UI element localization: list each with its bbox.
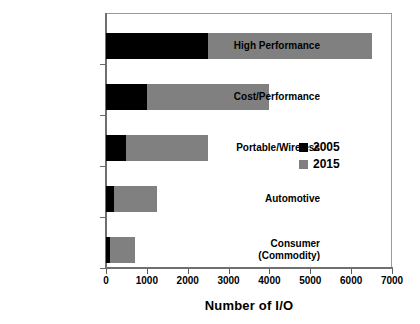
- x-tick-4000: [269, 269, 270, 274]
- x-tick-7000: [392, 269, 393, 274]
- category-label-line: Consumer: [220, 238, 320, 250]
- bar-segment: [110, 237, 135, 263]
- x-tick-5000: [310, 269, 311, 274]
- y-tick-2: [100, 115, 106, 116]
- legend: 2005 2015: [299, 139, 340, 173]
- category-label: Automotive: [220, 193, 320, 205]
- category-label: Consumer(Commodity): [220, 238, 320, 262]
- bar-segment: [114, 186, 157, 212]
- bar-chart: 01000200030004000500060007000 High Perfo…: [0, 0, 420, 324]
- x-axis-line: [106, 267, 393, 269]
- legend-swatch-icon-2005: [299, 143, 308, 152]
- x-tick-3000: [229, 269, 230, 274]
- bar-segment: [126, 135, 208, 161]
- x-axis-title: Number of I/O: [106, 298, 392, 313]
- category-label-line: Automotive: [220, 193, 320, 205]
- legend-label-2015: 2015: [313, 158, 340, 171]
- x-tick-2000: [188, 269, 189, 274]
- y-tick-3: [100, 166, 106, 167]
- category-label-line: (Commodity): [220, 250, 320, 262]
- x-tick-6000: [351, 269, 352, 274]
- category-label-line: Cost/Performance: [220, 91, 320, 103]
- y-tick-1: [100, 64, 106, 65]
- y-tick-5: [100, 268, 106, 269]
- bar-segment: [106, 186, 114, 212]
- y-tick-4: [100, 217, 106, 218]
- bar-segment: [106, 33, 208, 59]
- legend-swatch-icon-2015: [299, 160, 308, 169]
- category-label-line: High Performance: [220, 40, 320, 52]
- category-label: High Performance: [220, 40, 320, 52]
- x-tick-1000: [147, 269, 148, 274]
- legend-item-2015: 2015: [299, 156, 340, 173]
- x-tick-0: [106, 269, 107, 274]
- legend-item-2005: 2005: [299, 139, 340, 156]
- category-label: Cost/Performance: [220, 91, 320, 103]
- legend-label-2005: 2005: [313, 141, 340, 154]
- bar-segment: [106, 135, 126, 161]
- x-tick-label-7000: 7000: [362, 275, 420, 287]
- bar-segment: [106, 84, 147, 110]
